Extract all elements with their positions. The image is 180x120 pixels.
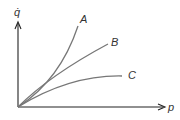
- y-axis: [15, 22, 21, 107]
- curve-c: [18, 76, 122, 107]
- y-axis-label: q̇: [14, 7, 20, 18]
- x-axis: [18, 104, 165, 110]
- curve-a-label: A: [80, 14, 87, 25]
- x-axis-label: p: [168, 102, 174, 113]
- curve-b-label: B: [111, 37, 118, 48]
- diagram-canvas: [0, 0, 180, 120]
- curve-c-label: C: [128, 70, 136, 81]
